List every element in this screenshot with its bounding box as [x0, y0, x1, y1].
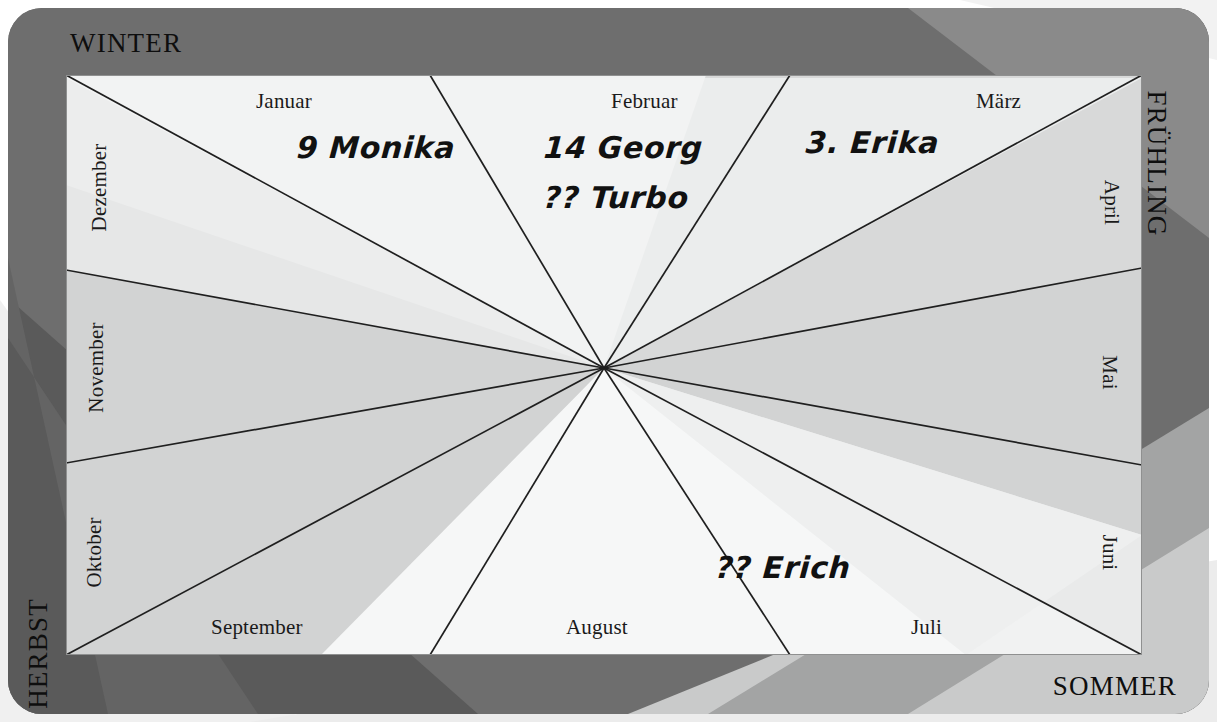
poster-frame: Januar Februar März April Mai Juni Juli …	[8, 8, 1209, 714]
season-label-fruehling: FRÜHLING	[1141, 69, 1172, 259]
month-label-august: August	[566, 615, 628, 640]
entry-turbo: ?? Turbo	[543, 180, 690, 215]
month-label-november: November	[84, 303, 109, 433]
season-label-herbst: HERBST	[23, 569, 54, 715]
season-label-sommer: SOMMER	[1053, 671, 1177, 702]
month-label-juli: Juli	[911, 615, 942, 640]
month-label-dezember: Dezember	[87, 123, 112, 253]
entry-erich: ?? Erich	[715, 550, 852, 585]
entry-monika: 9 Monika	[296, 130, 457, 165]
month-label-januar: Januar	[256, 89, 312, 114]
month-label-juni: Juni	[1097, 518, 1122, 588]
month-label-februar: Februar	[611, 89, 678, 114]
month-label-april: April	[1099, 158, 1124, 248]
season-label-winter: WINTER	[70, 28, 182, 59]
month-label-oktober: Oktober	[82, 503, 107, 603]
month-label-mai: Mai	[1097, 338, 1122, 408]
entry-erika: 3. Erika	[805, 125, 941, 160]
calendar-poster: Januar Februar März April Mai Juni Juli …	[0, 0, 1217, 722]
month-label-september: September	[211, 615, 303, 640]
month-label-maerz: März	[976, 89, 1021, 114]
entry-georg: 14 Georg	[543, 130, 704, 165]
year-wheel-panel: Januar Februar März April Mai Juni Juli …	[66, 75, 1142, 655]
